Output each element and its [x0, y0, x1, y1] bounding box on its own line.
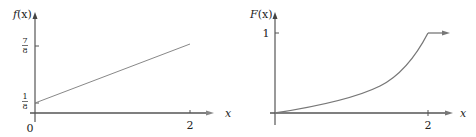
cdf-curve [275, 33, 428, 113]
density-line [35, 44, 190, 103]
cdf-chart: F(x) 1 2 x [238, 0, 476, 137]
y-axis-label: f(x) [12, 8, 32, 21]
y-axis-label: F(x) [249, 8, 272, 21]
x-axis-arrow-icon [206, 111, 214, 116]
x-axis-label: x [460, 107, 467, 120]
x-axis-label: x [225, 107, 232, 120]
x-tick-label-2: 2 [425, 119, 432, 132]
cdf-chart-svg: F(x) 1 2 x [238, 0, 476, 137]
density-chart: f(x) 7 8 1 8 0 2 x [0, 0, 238, 137]
x-axis-arrow-icon [445, 111, 453, 116]
tick-label-1-8-num: 1 [22, 92, 27, 101]
y-tick-label-1: 1 [263, 27, 270, 40]
x-tick-label-2: 2 [187, 119, 194, 132]
density-chart-svg: f(x) 7 8 1 8 0 2 x [0, 0, 238, 137]
origin-label: 0 [27, 122, 34, 135]
tick-label-7-8-den: 8 [22, 46, 27, 55]
y-axis-arrow-icon [33, 12, 38, 19]
tick-label-1-8-den: 8 [22, 102, 27, 111]
plateau-arrow-icon [442, 31, 450, 36]
y-axis-arrow-icon [273, 12, 278, 19]
tick-label-7-8-num: 7 [22, 36, 27, 45]
